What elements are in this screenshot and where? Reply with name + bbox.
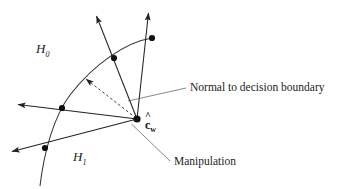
callout-manipulation: Manipulation xyxy=(174,156,236,168)
center-point-symbol: cw xyxy=(145,119,156,136)
decision-boundary-figure: H0 H1 Normal to decision boundary Manipu… xyxy=(0,0,350,189)
vector-left-upper xyxy=(18,105,137,120)
decision-boundary-curve xyxy=(40,38,152,186)
vector-up-left xyxy=(97,16,138,119)
boundary-point-left-lower xyxy=(42,145,48,151)
center-point-label: ^ cw xyxy=(145,114,156,136)
boundary-point-top-right xyxy=(149,35,155,41)
callout-normal-to-decision-boundary: Normal to decision boundary xyxy=(190,82,324,94)
region-label-h0-text: H xyxy=(36,41,45,56)
boundary-point-upper xyxy=(111,55,117,61)
vector-left-lower xyxy=(12,119,137,152)
boundary-point-left-upper xyxy=(59,105,65,111)
region-label-h1-text: H xyxy=(73,149,82,164)
region-label-h0-subscript: 0 xyxy=(45,50,49,59)
region-label-h0: H0 xyxy=(36,42,49,59)
region-label-h1: H1 xyxy=(73,150,86,167)
center-point-marker xyxy=(133,115,140,122)
vector-up-right xyxy=(137,13,149,119)
center-point-subscript: w xyxy=(150,125,156,134)
leader-line-normal xyxy=(128,88,186,101)
region-label-h1-subscript: 1 xyxy=(82,158,86,167)
